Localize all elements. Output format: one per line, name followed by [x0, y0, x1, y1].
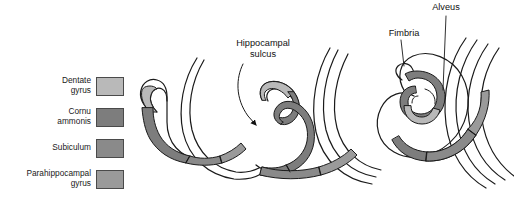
hippocampal-sulcus-leader [238, 64, 256, 125]
panel-1-early-stage [140, 58, 261, 179]
hippocampus-development-figure: Dentate gyrus Cornu ammonis Subiculum Pa… [0, 0, 514, 201]
caption-cutoff [0, 196, 514, 201]
panel-3-mature-stage [377, 16, 514, 188]
fimbria-leader [401, 40, 404, 66]
alveus-leader [443, 16, 446, 90]
anatomical-drawing [0, 0, 514, 201]
panel-2-intermediate-stage [238, 48, 381, 184]
